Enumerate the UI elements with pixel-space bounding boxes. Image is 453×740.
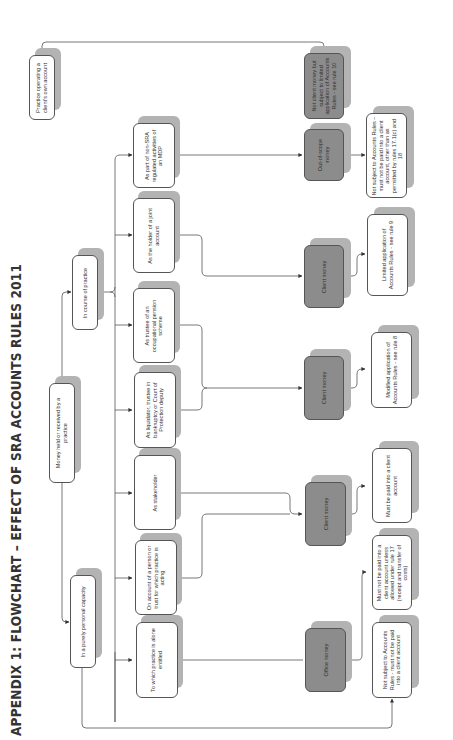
node-label: As liquidator, trustee in bankruptcy or … bbox=[145, 376, 165, 444]
node-label: Limited application of Accounts Rules - … bbox=[381, 220, 394, 290]
node-label: Practice operating a client's own accoun… bbox=[35, 58, 48, 118]
node-label: Must be paid into a client account bbox=[385, 452, 398, 520]
node-label: As part of non-SRA regulated activities … bbox=[144, 126, 164, 186]
node-label: Out-of-scope money bbox=[317, 131, 330, 179]
node-label: Money held or received by a practice bbox=[55, 388, 68, 478]
node-label: Client money bbox=[321, 248, 328, 306]
node-label: Client money bbox=[321, 359, 328, 417]
node-label: Client money bbox=[322, 485, 329, 543]
node-label: On account of a person or trust for whic… bbox=[146, 544, 166, 612]
node-label: Must not be paid into a client account u… bbox=[376, 538, 409, 608]
node-label: Modified application of Accounts Rules -… bbox=[385, 335, 398, 405]
node-label: Not subject to Accounts Rules - must not… bbox=[382, 625, 402, 695]
node-label: As stakeholder bbox=[152, 459, 159, 527]
node-label: Not subject to Accounts Rules – must not… bbox=[370, 116, 403, 196]
node-label: Not client money but subject to limited … bbox=[311, 56, 337, 116]
node-label: As trustee of an occupational pension sc… bbox=[144, 292, 164, 360]
node-label: Office money bbox=[322, 631, 329, 689]
node-label: To which practice is alone entitled bbox=[150, 626, 163, 694]
node-label: As the holder of a joint account bbox=[147, 202, 160, 270]
node-label: In course of practice bbox=[82, 258, 89, 328]
node-label: In a purely personal capacity bbox=[80, 578, 87, 666]
